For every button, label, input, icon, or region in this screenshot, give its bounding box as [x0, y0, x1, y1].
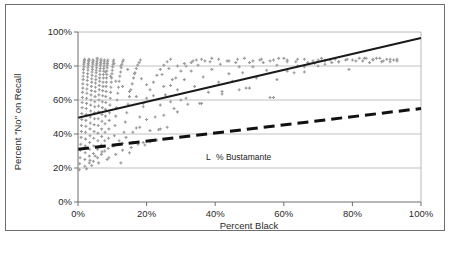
x-tick-label-60: 60%: [274, 208, 294, 219]
y-tick-label-80: 80%: [53, 60, 73, 71]
figure-container: Percent "No" on Recall 100% 80% 60% 40% …: [0, 0, 452, 277]
y-tick-label-100: 100%: [48, 26, 73, 37]
x-tick-label-40: 40%: [206, 208, 226, 219]
y-axis-title: Percent "No" on Recall: [12, 74, 23, 171]
y-tick-label-60: 60%: [53, 94, 73, 105]
x-tick-label-0: 0%: [71, 208, 85, 219]
y-tick-label-40: 40%: [53, 128, 73, 139]
y-tick-label-0: 0%: [58, 196, 72, 207]
x-tick-label-100: 100%: [409, 208, 434, 219]
annotation-bustamante: L % Bustamante: [206, 152, 272, 162]
plot-area: L % Bustamante: [78, 32, 421, 202]
x-tick-label-20: 20%: [137, 208, 157, 219]
y-tick-label-20: 20%: [53, 162, 73, 173]
scatter-chart: Percent "No" on Recall 100% 80% 60% 40% …: [6, 5, 444, 230]
annotation-marker-icon: L: [206, 152, 211, 162]
x-axis-title: Percent Black: [220, 220, 279, 230]
annotation-label: % Bustamante: [216, 152, 272, 162]
x-tick-label-80: 80%: [343, 208, 363, 219]
chart-outer-frame: Percent "No" on Recall 100% 80% 60% 40% …: [5, 4, 445, 231]
